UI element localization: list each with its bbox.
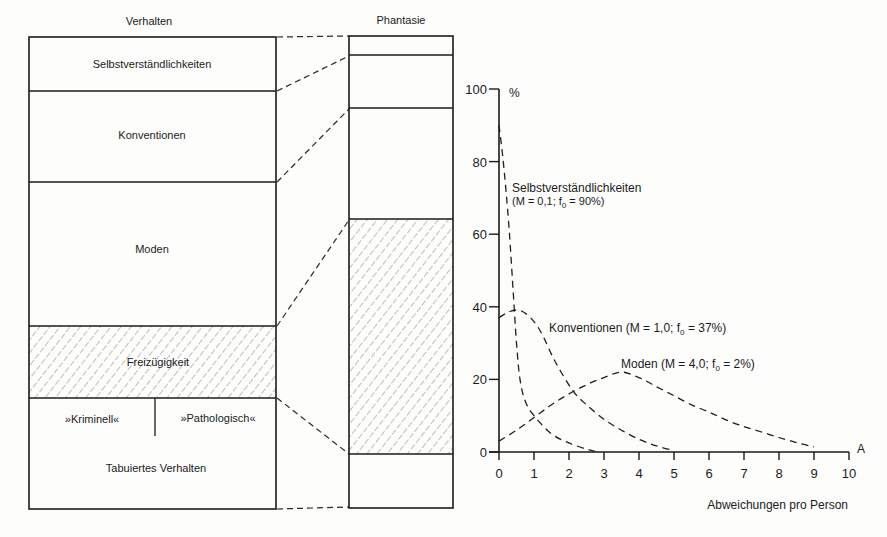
annotation-text: Konventionen (M = 1,0; f [549, 321, 681, 335]
annotation-text: = 90%) [566, 195, 604, 207]
distribution-chart: 020406080100 012345678910 % A Abweichung… [465, 82, 865, 512]
chart-axes [489, 89, 849, 452]
chart-curves [499, 125, 814, 452]
segment-label-taboo: Tabuiertes Verhalten [106, 462, 206, 474]
figure: Verhalten Selbstverständlichkeiten Konve… [0, 0, 887, 537]
annotation-fashions: Moden (M = 4,0; f0 = 2%) [621, 357, 755, 373]
x-tick-label: 0 [495, 466, 502, 481]
x-tick-label: 3 [600, 466, 607, 481]
x-axis-ticks: 012345678910 [495, 452, 856, 481]
y-axis-unit: % [509, 86, 520, 100]
connector-line [277, 109, 349, 182]
segment-label-self-evident: Selbstverständlichkeiten [93, 58, 212, 70]
x-tick-label: 8 [775, 466, 782, 481]
y-tick-label: 0 [480, 445, 487, 460]
annotation-text: = 37%) [685, 321, 727, 335]
curve-moden [499, 372, 814, 447]
annotation-text: Moden (M = 4,0; f [621, 357, 716, 371]
x-tick-label: 9 [810, 466, 817, 481]
y-tick-label: 80 [473, 155, 487, 170]
curve-selbstverständlichkeiten [499, 125, 597, 452]
x-tick-label: 7 [740, 466, 747, 481]
x-tick-label: 1 [530, 466, 537, 481]
segment-label-conventions: Konventionen [118, 129, 185, 141]
behavior-column: Verhalten Selbstverständlichkeiten Konve… [29, 15, 276, 509]
y-tick-label: 40 [473, 300, 487, 315]
connector-line [277, 398, 349, 454]
annotation-self-evident-name: Selbstverständlichkeiten [512, 181, 641, 195]
column-connectors [277, 36, 349, 509]
segment-label-fashions: Moden [135, 243, 169, 255]
connector-line [277, 36, 349, 37]
x-tick-label: 4 [635, 466, 642, 481]
behavior-column-title: Verhalten [126, 15, 172, 27]
fantasy-column: Phantasie [349, 14, 453, 508]
x-axis-label: Abweichungen pro Person [707, 498, 848, 512]
annotation-text: = 2%) [720, 357, 755, 371]
annotation-self-evident-params: (M = 0,1; f0 = 90%) [512, 195, 605, 210]
x-tick-label: 2 [565, 466, 572, 481]
y-tick-label: 100 [465, 82, 487, 97]
connector-line [277, 507, 349, 509]
annotation-text: (M = 0,1; f [512, 195, 563, 207]
y-tick-label: 60 [473, 227, 487, 242]
segment-sublabel-criminal: »Kriminell« [65, 413, 119, 425]
x-tick-label: 5 [670, 466, 677, 481]
fantasy-hatch [349, 219, 453, 454]
x-tick-label: 10 [842, 466, 856, 481]
connector-line [277, 220, 349, 326]
annotation-conventions: Konventionen (M = 1,0; f0 = 37%) [549, 321, 726, 337]
x-axis-symbol: A [857, 442, 865, 456]
behavior-box [29, 37, 276, 509]
fantasy-column-title: Phantasie [377, 14, 426, 26]
y-tick-label: 20 [473, 372, 487, 387]
x-tick-label: 6 [705, 466, 712, 481]
segment-sublabel-pathological: »Pathologisch« [180, 412, 255, 424]
connector-line [277, 56, 349, 91]
y-axis-ticks: 020406080100 [465, 82, 499, 460]
segment-label-permissiveness: Freizügigkeit [127, 356, 189, 368]
